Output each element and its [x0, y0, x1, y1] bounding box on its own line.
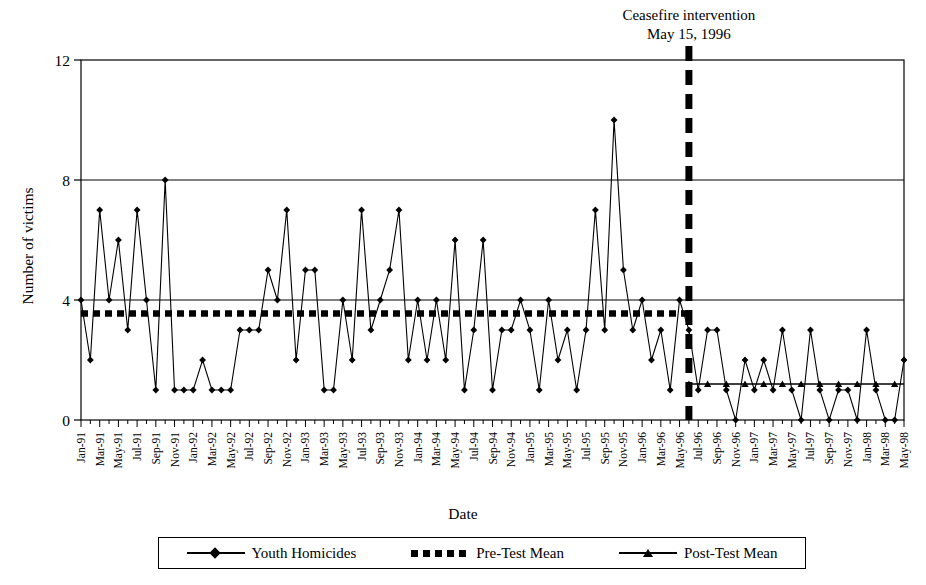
svg-text:Mar-91: Mar-91 [94, 432, 106, 467]
dotted-line-icon [411, 550, 469, 557]
svg-text:Nov-92: Nov-92 [281, 432, 293, 467]
svg-text:Jul-95: Jul-95 [580, 432, 592, 461]
svg-text:Mar-97: Mar-97 [767, 432, 779, 467]
svg-text:Nov-94: Nov-94 [505, 432, 517, 467]
svg-text:Mar-93: Mar-93 [318, 432, 330, 467]
svg-text:Jan-91: Jan-91 [75, 432, 87, 463]
youth-homicides-markers [78, 117, 908, 424]
x-axis-ticks [81, 420, 904, 427]
svg-text:Mar-94: Mar-94 [430, 432, 442, 467]
legend-label-pre-test-mean: Pre-Test Mean [476, 545, 564, 562]
svg-text:May-98: May-98 [898, 432, 911, 469]
svg-text:Jan-94: Jan-94 [412, 432, 424, 463]
svg-text:Mar-92: Mar-92 [206, 432, 218, 467]
svg-text:Nov-93: Nov-93 [393, 432, 405, 467]
svg-text:Sep-95: Sep-95 [599, 432, 612, 465]
svg-text:Mar-96: Mar-96 [655, 432, 667, 467]
svg-text:Jul-97: Jul-97 [804, 432, 816, 461]
svg-text:Nov-91: Nov-91 [169, 432, 181, 467]
legend-item-pre-test-mean: Pre-Test Mean [411, 545, 564, 562]
chart-figure: Ceasefire intervention May 15, 1996 Numb… [0, 0, 926, 585]
svg-text:May-91: May-91 [112, 432, 125, 469]
svg-text:May-95: May-95 [561, 432, 574, 469]
svg-text:Sep-96: Sep-96 [711, 432, 724, 465]
legend-label-post-test-mean: Post-Test Mean [684, 545, 778, 562]
svg-text:Jul-91: Jul-91 [131, 432, 143, 461]
chart-legend: Youth Homicides Pre-Test Mean Post-Test … [158, 537, 806, 569]
svg-text:Sep-94: Sep-94 [487, 432, 500, 465]
svg-text:Jan-96: Jan-96 [636, 432, 648, 463]
svg-text:Jan-97: Jan-97 [748, 432, 760, 463]
x-axis-tick-labels: Jan-91Mar-91May-91Jul-91Sep-91Nov-91Jan-… [75, 432, 911, 469]
post-test-mean-line [685, 380, 904, 386]
svg-text:May-93: May-93 [337, 432, 350, 469]
svg-text:May-97: May-97 [786, 432, 799, 469]
svg-text:Jan-93: Jan-93 [299, 432, 311, 463]
svg-text:4: 4 [62, 292, 70, 309]
svg-text:8: 8 [62, 172, 70, 189]
gridlines [81, 180, 904, 300]
svg-text:Jan-98: Jan-98 [861, 432, 873, 463]
svg-text:Jul-94: Jul-94 [468, 432, 480, 461]
svg-text:Sep-92: Sep-92 [262, 432, 275, 465]
svg-text:May-94: May-94 [449, 432, 462, 469]
svg-text:Mar-95: Mar-95 [543, 432, 555, 467]
plot-area: 04812 Jan-91Mar-91May-91Jul-91Sep-91Nov-… [0, 0, 926, 585]
svg-text:Jan-92: Jan-92 [187, 432, 199, 463]
svg-text:May-92: May-92 [225, 432, 238, 469]
svg-text:Jul-92: Jul-92 [243, 432, 255, 461]
svg-text:Nov-97: Nov-97 [842, 432, 854, 467]
svg-text:12: 12 [55, 52, 71, 69]
svg-text:Sep-91: Sep-91 [150, 432, 163, 465]
youth-homicides-line [81, 120, 904, 420]
legend-item-post-test-mean: Post-Test Mean [619, 545, 778, 562]
svg-text:Jul-93: Jul-93 [356, 432, 368, 461]
legend-label-youth-homicides: Youth Homicides [252, 545, 357, 562]
svg-text:Mar-98: Mar-98 [879, 432, 891, 467]
svg-text:Nov-96: Nov-96 [730, 432, 742, 467]
svg-text:May-96: May-96 [674, 432, 687, 469]
diamond-marker-icon [187, 547, 245, 559]
triangle-marker-icon [619, 547, 677, 559]
y-axis-ticks: 04812 [55, 52, 82, 429]
svg-text:Jul-96: Jul-96 [692, 432, 704, 461]
svg-text:Sep-93: Sep-93 [374, 432, 387, 465]
svg-text:Jan-95: Jan-95 [524, 432, 536, 463]
svg-text:Sep-97: Sep-97 [823, 432, 836, 465]
legend-item-youth-homicides: Youth Homicides [187, 545, 357, 562]
svg-text:0: 0 [62, 412, 70, 429]
svg-text:Nov-95: Nov-95 [617, 432, 629, 467]
